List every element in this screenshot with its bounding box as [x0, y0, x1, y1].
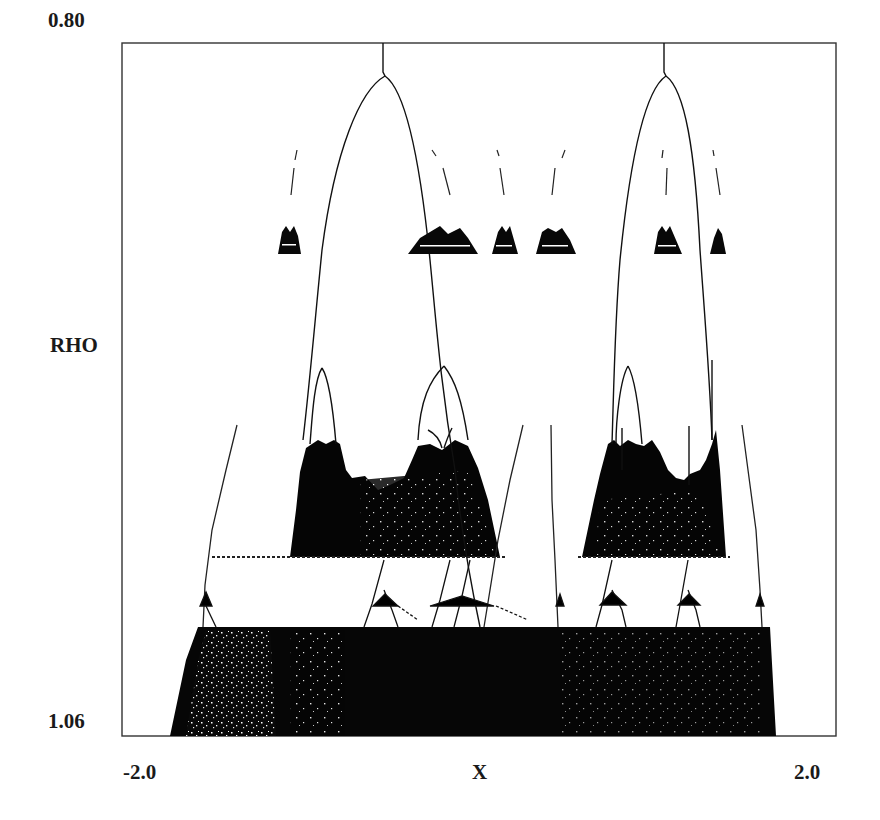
lower-period-windows [200, 560, 764, 627]
middle-chaotic-band-right [578, 430, 730, 557]
middle-chaotic-band-left [212, 440, 505, 557]
main-parabola-right [612, 43, 712, 485]
bottom-chaotic-band [170, 627, 776, 736]
bifurcation-plot [0, 0, 880, 820]
upper-periodic-islands [278, 150, 726, 254]
